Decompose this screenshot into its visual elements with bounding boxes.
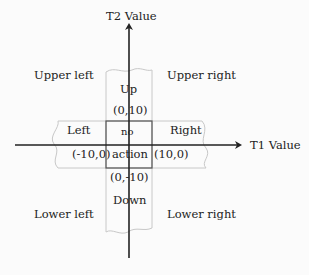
no-action-line1: no bbox=[121, 127, 133, 137]
region-upper-right: Upper right bbox=[167, 70, 236, 82]
no-action-line2: action bbox=[112, 149, 148, 161]
point-bottom: (0,-10) bbox=[110, 172, 148, 184]
point-left: (-10,0) bbox=[72, 149, 110, 161]
point-top: (0,10) bbox=[113, 105, 148, 117]
region-lower-right: Lower right bbox=[167, 209, 236, 221]
region-upper-left: Upper left bbox=[34, 70, 94, 82]
t2-axis-label: T2 Value bbox=[106, 11, 157, 23]
point-right: (10,0) bbox=[154, 149, 189, 161]
region-right: Right bbox=[170, 125, 202, 137]
region-down: Down bbox=[113, 195, 146, 207]
t1-axis-label: T1 Value bbox=[250, 140, 301, 152]
region-left: Left bbox=[67, 125, 90, 137]
region-lower-left: Lower left bbox=[34, 209, 94, 221]
region-up: Up bbox=[120, 84, 137, 96]
